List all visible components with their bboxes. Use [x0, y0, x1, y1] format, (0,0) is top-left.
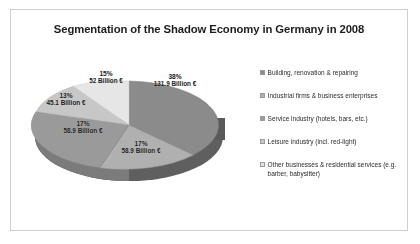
pie-slice-value-0: 131.9 Billion € — [137, 80, 213, 87]
legend-swatch-icon — [260, 139, 265, 144]
pie-slice-value-1: 58.9 Billion € — [103, 147, 179, 154]
legend-swatch-icon — [260, 116, 265, 121]
pie-slice-label-2: 17% 58.9 Billion € — [45, 120, 121, 135]
pie-chart: 38% 131.9 Billion € 17% 58.9 Billion € 1… — [25, 52, 247, 202]
pie-slice-value-3: 45.1 Billion € — [28, 99, 104, 106]
legend-swatch-icon — [260, 162, 265, 167]
legend-label: Service industry (hotels, bars, etc.) — [268, 114, 368, 123]
pie-slice-label-0: 38% 131.9 Billion € — [137, 73, 213, 88]
legend-swatch-icon — [260, 93, 265, 98]
chart-container: Segmentation of the Shadow Economy in Ge… — [10, 9, 408, 231]
pie-slice-value-4: 52 Billion € — [70, 77, 142, 84]
chart-title: Segmentation of the Shadow Economy in Ge… — [11, 23, 407, 35]
legend-item-building[interactable]: Building, renovation & repairing — [260, 68, 410, 77]
pie-slice-label-3: 13% 45.1 Billion € — [28, 92, 104, 107]
legend-item-leisure[interactable]: Leisure industry (incl. red-light) — [260, 137, 410, 146]
legend-label: Building, renovation & repairing — [268, 68, 358, 77]
legend-item-other[interactable]: Other businesses & residential services … — [260, 160, 410, 179]
legend-item-industrial[interactable]: Industrial firms & business enterprises — [260, 91, 410, 100]
legend-label: Other businesses & residential services … — [268, 160, 410, 179]
pie-slice-label-1: 17% 58.9 Billion € — [103, 140, 179, 155]
legend-label: Industrial firms & business enterprises — [268, 91, 378, 100]
legend-label: Leisure industry (incl. red-light) — [268, 137, 357, 146]
chart-legend: Building, renovation & repairing Industr… — [260, 68, 410, 192]
legend-swatch-icon — [260, 70, 265, 75]
pie-slice-label-4: 15% 52 Billion € — [70, 70, 142, 85]
pie-slice-value-2: 58.9 Billion € — [45, 127, 121, 134]
legend-item-service[interactable]: Service industry (hotels, bars, etc.) — [260, 114, 410, 123]
